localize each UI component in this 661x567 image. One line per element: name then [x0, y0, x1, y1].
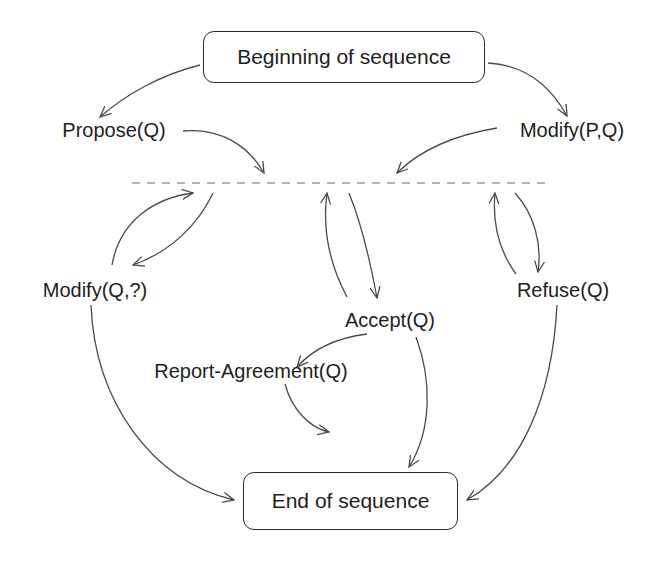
- edge-report-to-end: [285, 384, 329, 432]
- node-end-of-sequence: End of sequence: [243, 472, 458, 530]
- edge-accept-to-end: [409, 337, 427, 467]
- edge-begin-to-propose: [100, 65, 200, 117]
- node-report-agreement: Report-Agreement(Q): [154, 360, 347, 383]
- node-end-label: End of sequence: [272, 489, 430, 513]
- edge-accept-to-divider: [326, 193, 347, 297]
- node-propose: Propose(Q): [62, 119, 165, 142]
- state-diagram: Beginning of sequence End of sequence Pr…: [0, 0, 661, 567]
- edge-modify-pq-to-divider: [397, 128, 497, 173]
- node-modify-pq: Modify(P,Q): [520, 119, 624, 142]
- edge-modify-q-to-divider: [112, 193, 193, 265]
- edge-modify-q-to-end: [91, 305, 234, 500]
- node-modify-q: Modify(Q,?): [43, 279, 147, 302]
- edge-divider-to-refuse: [515, 193, 539, 272]
- node-refuse: Refuse(Q): [517, 279, 609, 302]
- node-beginning-of-sequence: Beginning of sequence: [203, 31, 485, 83]
- edge-divider-to-modify-q: [133, 193, 213, 265]
- edge-refuse-to-divider: [494, 193, 516, 274]
- edge-propose-to-divider: [183, 131, 264, 173]
- edge-divider-to-accept: [349, 193, 377, 298]
- edge-begin-to-modify-pq: [488, 63, 567, 116]
- node-beginning-label: Beginning of sequence: [237, 45, 451, 69]
- edge-refuse-to-end: [467, 305, 557, 500]
- node-accept: Accept(Q): [345, 309, 435, 332]
